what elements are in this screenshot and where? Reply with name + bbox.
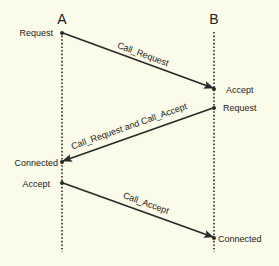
message-arrow-call-accept — [63, 183, 213, 237]
event-label-a-connected: Connected — [14, 158, 58, 168]
event-label-a-request: Request — [19, 28, 53, 38]
event-label-b-request: Request — [223, 103, 257, 113]
sequence-diagram: A B Request Accept Request Connected Acc… — [0, 0, 279, 266]
lifeline-a-label: A — [57, 11, 67, 27]
message-arrow-call-request-accept — [63, 108, 213, 161]
message-arrow-call-request — [63, 33, 213, 88]
lifeline-b-label: B — [209, 11, 218, 27]
message-label-call-request: Call_Request — [116, 40, 171, 68]
event-label-a-accept: Accept — [22, 179, 50, 189]
event-label-b-connected: Connected — [218, 234, 262, 244]
event-label-b-accept: Accept — [226, 85, 254, 95]
message-label-call-request-accept: Call_Request and Call_Accept — [70, 101, 189, 151]
